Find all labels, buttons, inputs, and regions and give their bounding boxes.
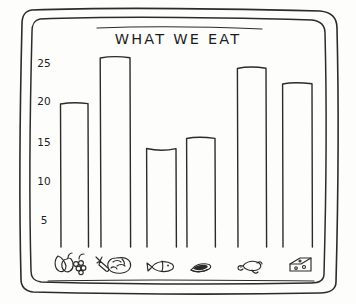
- bar-fruit: [61, 103, 89, 247]
- inner-border: [30, 17, 326, 284]
- bar-fish: [147, 149, 177, 248]
- vegetables-icon: [96, 257, 131, 273]
- bar-vegetables: [100, 57, 130, 247]
- ytick-label-15: 15: [37, 136, 50, 148]
- bar-cheese: [283, 83, 313, 247]
- ytick-label-5: 5: [41, 214, 48, 226]
- bar-poultry: [237, 67, 266, 247]
- title-rule: [97, 27, 262, 29]
- ytick-label-25: 25: [37, 57, 50, 69]
- chart-canvas: WHAT WE EAT 25 20 15 10 5: [0, 0, 356, 304]
- ytick-label-20: 20: [37, 95, 50, 107]
- icon-baseline-rule: [48, 280, 314, 281]
- fruit-icon: [55, 253, 86, 275]
- poultry-icon: [238, 261, 262, 273]
- bar-meat: [187, 137, 216, 247]
- ytick-label-10: 10: [37, 175, 50, 187]
- meat-icon: [191, 264, 211, 272]
- hand-drawn-bar-chart: WHAT WE EAT 25 20 15 10 5: [0, 0, 356, 304]
- fish-icon: [147, 261, 174, 272]
- chart-title: WHAT WE EAT: [115, 31, 242, 47]
- cheese-icon: [290, 258, 311, 271]
- outer-border: [20, 8, 338, 294]
